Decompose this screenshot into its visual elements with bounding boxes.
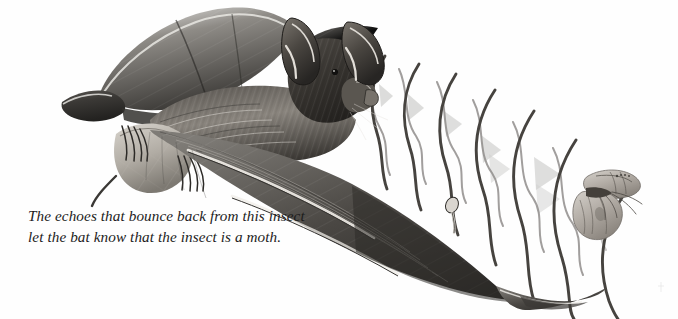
illustration-canvas: The echoes that bounce back from this in… <box>0 0 678 319</box>
bat-eye <box>332 69 338 75</box>
bat-echolocation-figure <box>0 0 678 319</box>
bat-nose-leaf <box>364 90 378 107</box>
